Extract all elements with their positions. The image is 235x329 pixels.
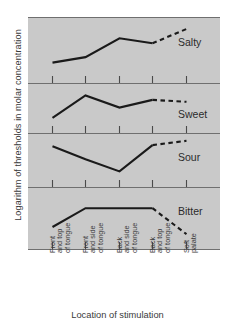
- x-tick-label-line: of tongue: [163, 167, 170, 253]
- x-tick-label-4: Softpalate: [183, 167, 194, 253]
- x-tick-label-line: of tongue: [130, 167, 137, 253]
- series-line-salty: [53, 38, 153, 62]
- series-label-sour: Sour: [178, 151, 200, 163]
- x-tick-label-1: Frontand sideof tongue: [82, 167, 93, 253]
- x-tick-label-line: of tongue: [96, 167, 103, 253]
- x-tick-label-0: Frontand topof tongue: [49, 167, 60, 253]
- taste-threshold-chart: Logarithm of thresholds in molar concent…: [0, 0, 235, 329]
- series-label-sweet: Sweet: [178, 108, 207, 120]
- series-label-salty: Salty: [178, 36, 201, 48]
- series-line-dashed-sour: [153, 141, 187, 145]
- series-line-sweet: [53, 95, 153, 117]
- x-tick-label-line: of tongue: [63, 167, 70, 253]
- x-tick-label-line: palate: [190, 167, 197, 253]
- x-tick-label-3: Backand topof tongue: [149, 167, 160, 253]
- y-axis-title: Logarithm of thresholds in molar concent…: [13, 5, 23, 245]
- x-tick-label-2: Backand sideof tongue: [116, 167, 127, 253]
- series-line-dashed-sweet: [153, 100, 187, 102]
- x-axis-title: Location of stimulation: [0, 310, 235, 320]
